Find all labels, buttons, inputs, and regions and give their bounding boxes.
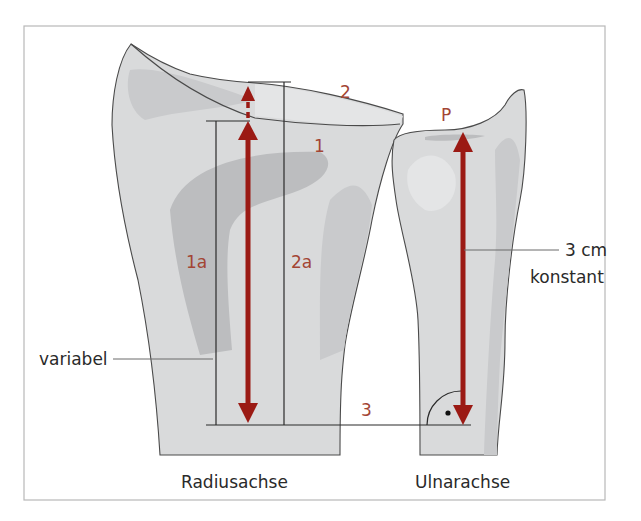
label-dist-1a: 1a: [186, 252, 207, 272]
label-3cm: 3 cm: [565, 240, 607, 260]
label-radiusachse: Radiusachse: [181, 472, 288, 492]
label-variabel: variabel: [39, 349, 108, 369]
label-dist-2a: 2a: [291, 252, 312, 272]
label-konstant: konstant: [530, 267, 604, 287]
radius-ulna-diagram: 2 1 P 1a 2a 3 variabel 3 cm konstant Rad…: [0, 0, 641, 521]
label-line-3: 3: [361, 400, 372, 420]
label-line-1: 1: [314, 136, 325, 156]
label-line-2: 2: [340, 82, 351, 102]
label-point-p: P: [441, 105, 451, 125]
right-angle-dot: [445, 410, 450, 415]
label-ulnarachse: Ulnarachse: [415, 472, 510, 492]
